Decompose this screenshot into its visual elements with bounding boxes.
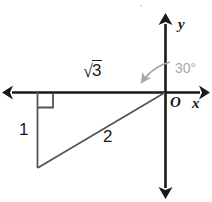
side-label-base: √3 <box>83 60 102 81</box>
side-label-hypotenuse: 2 <box>103 128 112 145</box>
image-speck-artifact <box>140 5 142 7</box>
y-axis-arrow-down <box>159 187 173 199</box>
y-axis-label: y <box>178 17 185 32</box>
y-axis-arrow-up <box>159 13 173 25</box>
geometry-figure: y x O √3 1 2 30° <box>0 0 212 202</box>
side-label-vertical-leg: 1 <box>19 121 28 138</box>
x-axis-label: x <box>192 96 200 111</box>
radicand-value: 3 <box>92 60 102 81</box>
triangle-hypotenuse <box>38 93 166 169</box>
origin-label: O <box>170 95 181 110</box>
x-axis-arrow-right <box>199 86 210 100</box>
angle-measure-label: 30° <box>175 61 196 75</box>
x-axis-arrow-left <box>2 86 13 100</box>
right-angle-marker <box>38 93 54 108</box>
radical-expression: √3 <box>83 60 102 81</box>
